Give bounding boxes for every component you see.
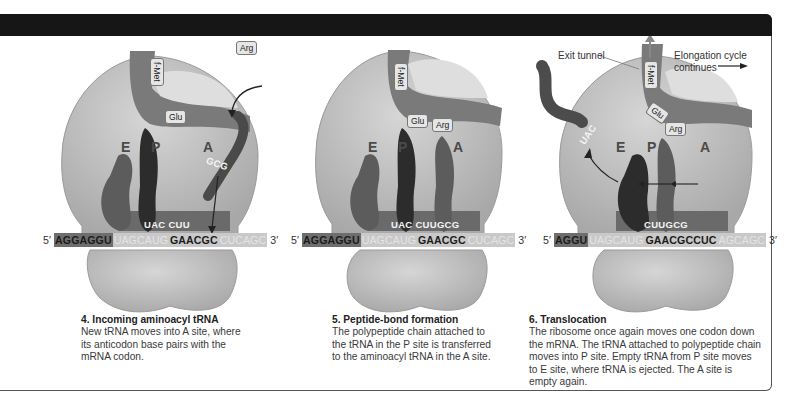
mrna-dark-segment: AGGU — [554, 233, 588, 247]
elongation-label-line1: Elongation cycle — [674, 50, 747, 62]
step-caption: 5. Peptide-bond formation The polypeptid… — [332, 314, 522, 364]
panel-incoming-aminoacyl-trna: E P A f-Met Glu Arg GCG UAC CUU 5′ AGGAG… — [0, 36, 270, 391]
amino-acid-arg: Arg — [236, 41, 257, 55]
mrna-dark-segment: AGGAGGU — [54, 233, 113, 247]
mrna-5-prime: 5′ — [540, 234, 554, 246]
mrna-codon-segment: GAACGCCUC — [645, 233, 718, 247]
amino-acid-fmet: f-Met — [394, 63, 408, 91]
amino-acid-arg: Arg — [432, 118, 453, 132]
mrna-codon-segment: GAACGC — [417, 233, 467, 247]
mrna-light-segment-2: AGCAGC — [717, 233, 766, 247]
amino-acid-arg: Arg — [665, 122, 686, 136]
exit-tunnel-label: Exit tunnel — [558, 50, 605, 62]
site-label-e: E — [368, 139, 377, 155]
step-title: 6. Translocation — [529, 314, 769, 326]
site-label-e: E — [616, 139, 625, 155]
mrna-strand: 5′ AGGU UAGCAUG GAACGCCUC AGCAGC 3′ — [540, 233, 780, 247]
site-label-p: P — [647, 139, 656, 155]
mrna-light-segment-1: UAGCAUG — [113, 233, 169, 247]
step-description-line: moves into P site. Empty tRNA from P sit… — [529, 351, 769, 363]
mrna-light-segment-2: CUCAGC — [467, 233, 516, 247]
step-caption: 6. Translocation The ribosome once again… — [529, 314, 769, 388]
mrna-light-segment-2: CUCAGC — [219, 233, 268, 247]
anticodon-bound: UAC CUUGCG — [391, 219, 459, 230]
mrna-light-segment-1: UAGCAUG — [588, 233, 644, 247]
step-description-line: to E site, where tRNA is ejected. The A … — [529, 364, 769, 376]
site-label-p: P — [151, 139, 160, 155]
amino-acid-glu: Glu — [165, 110, 186, 124]
mrna-5-prime: 5′ — [288, 234, 302, 246]
step-caption: 4. Incoming aminoacyl tRNA New tRNA move… — [81, 314, 271, 364]
amino-acid-glu: Glu — [407, 114, 428, 128]
anticodon-bound: UAC CUU — [144, 219, 190, 230]
step-description-line: mRNA codon. — [81, 351, 271, 363]
step-description-line: to the aminoacyl tRNA in the A site. — [332, 351, 522, 363]
mrna-strand: 5′ AGGAGGU UAGCAUG GAACGC CUCAGC 3′ — [288, 233, 529, 247]
step-title: 5. Peptide-bond formation — [332, 314, 522, 326]
step-description-line: the mRNA. The tRNA attached to polypepti… — [529, 339, 769, 351]
mrna-light-segment-1: UAGCAUG — [361, 233, 417, 247]
elongation-label-line2: continues — [674, 62, 747, 74]
anticodon-bound: CUUGCG — [644, 219, 688, 230]
amino-acid-fmet: f-Met — [644, 61, 658, 89]
figure-banner — [0, 14, 772, 36]
step-description-line: The ribosome once again moves one codon … — [529, 326, 769, 338]
mrna-dark-segment: AGGAGGU — [302, 233, 361, 247]
step-description-line: empty again. — [529, 376, 769, 388]
amino-acid-fmet: f-Met — [150, 58, 164, 86]
mrna-codon-segment: GAACGC — [169, 233, 219, 247]
step-description-line: the tRNA in the P site is transferred — [332, 339, 522, 351]
panel-peptide-bond-formation: E P A f-Met Glu Arg UAC CUUGCG 5′ AGGAGG… — [270, 36, 530, 391]
step-title: 4. Incoming aminoacyl tRNA — [81, 314, 271, 326]
elongation-continues-label: Elongation cycle continues — [674, 50, 747, 74]
site-label-a: A — [453, 139, 463, 155]
site-label-a: A — [700, 139, 710, 155]
site-label-a: A — [203, 139, 213, 155]
mrna-strand: 5′ AGGAGGU UAGCAUG GAACGC CUCAGC 3′ — [40, 233, 281, 247]
step-description-line: its anticodon base pairs with the — [81, 339, 271, 351]
mrna-5-prime: 5′ — [40, 234, 54, 246]
site-label-e: E — [121, 139, 130, 155]
step-description-line: New tRNA moves into A site, where — [81, 326, 271, 338]
step-description-line: The polypeptide chain attached to — [332, 326, 522, 338]
mrna-3-prime: 3′ — [766, 234, 780, 246]
site-label-p: P — [398, 139, 407, 155]
panel-translocation: Exit tunnel Elongation cycle continues E… — [520, 36, 772, 391]
